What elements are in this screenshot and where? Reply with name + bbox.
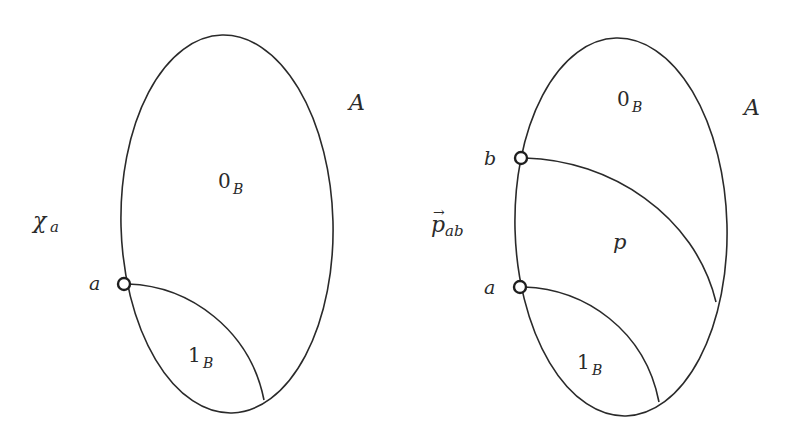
one-sub: B — [591, 362, 602, 378]
boundary-curve-a — [524, 287, 659, 402]
one-base: 1 — [577, 350, 590, 374]
set-label: A — [742, 95, 760, 120]
function-label-p-ab: → p ab — [431, 204, 464, 240]
point-b-marker[interactable] — [515, 152, 527, 164]
zero-region-label: 0 B — [218, 169, 243, 197]
right-diagram: A 0 B p 1 B → p ab b a — [431, 35, 760, 418]
one-region-label: 1 B — [577, 350, 602, 378]
p-sub: ab — [445, 222, 464, 240]
chi-sub: a — [50, 218, 59, 236]
point-a-marker[interactable] — [118, 278, 130, 290]
chi-base: χ — [31, 208, 48, 233]
zero-sub: B — [631, 99, 642, 115]
zero-sub: B — [232, 181, 243, 197]
left-diagram: A 0 B 1 B χ a a — [31, 32, 365, 415]
diagram-canvas: A 0 B 1 B χ a a A 0 B p 1 B — [0, 0, 798, 444]
set-a-ellipse — [116, 32, 338, 415]
set-label: A — [347, 90, 365, 115]
point-b-label: b — [484, 147, 496, 169]
one-sub: B — [202, 355, 213, 371]
boundary-curve-a — [128, 284, 264, 400]
zero-base: 0 — [617, 87, 630, 111]
function-label-chi-a: χ a — [31, 208, 59, 236]
p-region-label: p — [613, 230, 626, 254]
zero-base: 0 — [218, 169, 231, 193]
point-a-marker[interactable] — [514, 281, 526, 293]
p-base: p — [613, 230, 626, 254]
p-base: p — [431, 212, 445, 237]
point-a-label: a — [484, 276, 495, 298]
zero-region-label: 0 B — [617, 87, 642, 115]
one-region-label: 1 B — [188, 343, 213, 371]
one-base: 1 — [188, 343, 201, 367]
point-a-label: a — [89, 272, 100, 294]
